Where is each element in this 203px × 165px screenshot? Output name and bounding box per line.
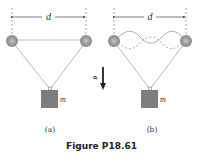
- string-right: [51, 44, 84, 88]
- dimension-label-d: d: [46, 11, 52, 22]
- panel-label-b: (b): [147, 125, 158, 134]
- mass-label: m: [160, 95, 166, 104]
- figure-caption: Figure P18.61: [0, 141, 203, 151]
- panel-label-a: (a): [45, 125, 55, 134]
- pulley-right: [80, 35, 92, 47]
- dimension-label-d: d: [148, 11, 154, 22]
- pulley-right: [180, 35, 192, 47]
- gravity-arrow-icon: [100, 83, 106, 90]
- string-right: [151, 44, 184, 88]
- mass-label: m: [60, 95, 66, 104]
- gravity-vector: g: [92, 67, 106, 90]
- panel-b: d m (b): [108, 8, 192, 134]
- string-left: [116, 44, 149, 88]
- pulley-left: [108, 35, 120, 47]
- mass-block: [41, 90, 58, 108]
- string-left: [14, 44, 49, 88]
- mass-block: [141, 90, 158, 108]
- pulley-left: [6, 35, 18, 47]
- panel-a: d m (a): [6, 8, 92, 134]
- gravity-label: g: [92, 75, 100, 80]
